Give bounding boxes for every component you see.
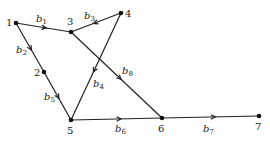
edge-b8 (71, 32, 162, 118)
node-label: 6 (158, 123, 164, 134)
edge-label: b8 (122, 65, 133, 78)
edge-b7 (162, 116, 259, 118)
edge-b6 (71, 118, 162, 120)
edge-label: b4 (93, 78, 104, 91)
graph-diagram: b1b2b3b4b5b6b7b81234567 (0, 0, 270, 141)
node-label: 7 (255, 121, 261, 132)
node-6 (160, 116, 165, 121)
node-2 (42, 70, 47, 75)
node-5 (69, 118, 74, 123)
node-label: 5 (67, 125, 73, 136)
edge-label: b6 (115, 123, 126, 136)
node-label: 1 (6, 17, 12, 28)
edge-label: b1 (36, 13, 47, 26)
node-1 (14, 21, 19, 26)
edge-label: b7 (203, 123, 214, 136)
edge-label: b2 (16, 44, 27, 57)
edge-label: b5 (44, 91, 55, 104)
node-7 (257, 114, 262, 119)
node-label: 3 (67, 16, 73, 27)
node-3 (69, 30, 74, 35)
node-label: 2 (34, 67, 40, 78)
node-label: 4 (125, 8, 131, 19)
edge-label: b3 (84, 10, 95, 23)
node-4 (119, 11, 124, 16)
